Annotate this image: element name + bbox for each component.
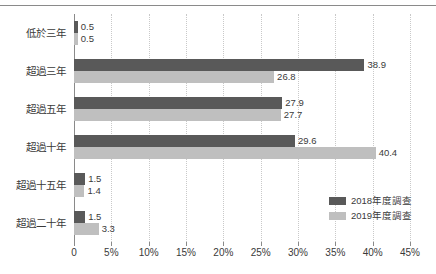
x-tick-mark: [186, 242, 187, 246]
category-label: 超過二十年: [16, 218, 66, 229]
category-label: 超過十年: [26, 142, 66, 153]
x-tick-mark: [298, 242, 299, 246]
bar-2018: [74, 211, 85, 223]
bar-2018: [74, 21, 78, 33]
legend-label: 2018年度調查: [351, 196, 412, 206]
bar-row: 29.6: [74, 135, 421, 147]
x-tick-label: 45%: [400, 248, 420, 258]
x-axis: 05%10%15%20%25%30%35%40%45%: [74, 242, 421, 268]
x-tick-label: 10%: [139, 248, 159, 258]
bar-value-label: 0.5: [81, 34, 94, 44]
bar-group: 0.50.5: [74, 21, 421, 45]
legend-item-2019[interactable]: 2019年度調查: [329, 209, 425, 222]
bar-2019: [74, 33, 78, 45]
x-tick-label: 15%: [176, 248, 196, 258]
bar-value-label: 29.6: [298, 136, 317, 146]
bar-value-label: 1.5: [88, 212, 101, 222]
legend: 2018年度調查2019年度調查: [329, 194, 425, 224]
bar-2019: [74, 223, 99, 235]
x-tick-mark: [261, 242, 262, 246]
bar-row: 1.5: [74, 173, 421, 185]
bar-2019: [74, 71, 274, 83]
legend-item-2018[interactable]: 2018年度調查: [329, 194, 425, 207]
x-tick-mark: [373, 242, 374, 246]
x-tick-mark: [111, 242, 112, 246]
x-tick-label: 35%: [325, 248, 345, 258]
bar-group: 29.640.4: [74, 135, 421, 159]
bar-row: 0.5: [74, 21, 421, 33]
bar-value-label: 1.5: [88, 174, 101, 184]
bar-2019: [74, 185, 84, 197]
bar-value-label: 40.4: [379, 148, 398, 158]
category-label: 超過三年: [26, 66, 66, 77]
x-tick-mark: [223, 242, 224, 246]
bar-row: 0.5: [74, 33, 421, 45]
bar-2018: [74, 59, 364, 71]
x-tick-mark: [335, 242, 336, 246]
bar-2018: [74, 173, 85, 185]
legend-swatch-icon: [329, 197, 346, 205]
bar-row: 27.7: [74, 109, 421, 121]
x-tick-label: 0: [71, 248, 77, 258]
bar-value-label: 0.5: [81, 22, 94, 32]
top-divider-rule: [0, 5, 436, 6]
bar-value-label: 38.9: [367, 60, 386, 70]
bar-value-label: 1.4: [87, 186, 100, 196]
bar-2019: [74, 147, 376, 159]
category-label: 超過十五年: [16, 180, 66, 191]
bar-value-label: 26.8: [277, 72, 296, 82]
bar-group: 38.926.8: [74, 59, 421, 83]
bar-2018: [74, 135, 295, 147]
bar-2018: [74, 97, 282, 109]
x-tick-mark: [74, 242, 75, 246]
legend-label: 2019年度調查: [351, 211, 412, 221]
bar-row: 3.3: [74, 223, 421, 235]
category-label: 超過五年: [26, 104, 66, 115]
x-tick-label: 25%: [251, 248, 271, 258]
x-tick-label: 30%: [288, 248, 308, 258]
bar-value-label: 3.3: [102, 224, 115, 234]
x-tick-label: 40%: [363, 248, 383, 258]
category-axis-labels: 低於三年超過三年超過五年超過十年超過十五年超過二十年: [0, 14, 70, 242]
bar-value-label: 27.7: [284, 110, 303, 120]
x-tick-mark: [149, 242, 150, 246]
x-tick-label: 20%: [213, 248, 233, 258]
legend-swatch-icon: [329, 212, 346, 220]
bar-row: 27.9: [74, 97, 421, 109]
bar-row: 40.4: [74, 147, 421, 159]
bar-chart: 低於三年超過三年超過五年超過十年超過十五年超過二十年 0.50.538.926.…: [0, 0, 436, 274]
bar-value-label: 27.9: [285, 98, 304, 108]
bar-2019: [74, 109, 281, 121]
category-label: 低於三年: [26, 28, 66, 39]
bar-row: 26.8: [74, 71, 421, 83]
bar-group: 27.927.7: [74, 97, 421, 121]
bar-row: 38.9: [74, 59, 421, 71]
x-tick-label: 5%: [104, 248, 118, 258]
x-tick-mark: [410, 242, 411, 246]
